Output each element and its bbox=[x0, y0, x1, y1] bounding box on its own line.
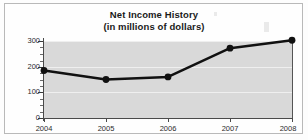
x-tick-label-2006: 2006 bbox=[148, 124, 188, 133]
chart-title-line-1: Net Income History bbox=[0, 9, 308, 21]
y-minor-tick bbox=[40, 99, 43, 100]
x-tick-label-2007: 2007 bbox=[210, 124, 250, 133]
gridline-200 bbox=[44, 67, 292, 68]
x-tick-2007 bbox=[230, 118, 231, 122]
y-major-tick-100 bbox=[38, 92, 43, 93]
y-minor-tick bbox=[40, 54, 43, 55]
y-minor-tick bbox=[40, 73, 43, 74]
y-minor-tick bbox=[40, 80, 43, 81]
y-minor-tick bbox=[40, 47, 43, 48]
y-major-tick-300 bbox=[38, 41, 43, 42]
gridlines bbox=[44, 41, 292, 118]
y-tick-label-200: 200 bbox=[6, 63, 40, 71]
x-tick-2008 bbox=[292, 118, 293, 122]
y-tick-label-100: 100 bbox=[6, 88, 40, 96]
chart-title-line-2: (in millions of dollars) bbox=[0, 21, 308, 33]
x-tick-label-2004: 2004 bbox=[24, 124, 64, 133]
y-minor-tick bbox=[40, 86, 43, 87]
y-minor-tick bbox=[40, 61, 43, 62]
y-axis-labels: 300 200 100 0 bbox=[4, 0, 40, 140]
x-tick-2005 bbox=[106, 118, 107, 122]
plot-area bbox=[44, 41, 293, 118]
x-tick-label-2005: 2005 bbox=[86, 124, 126, 133]
y-major-tick-200 bbox=[38, 67, 43, 68]
y-minor-tick bbox=[40, 105, 43, 106]
gridline-100 bbox=[44, 92, 292, 93]
y-tick-label-0: 0 bbox=[6, 114, 40, 122]
chart-figure: Net Income History (in millions of dolla… bbox=[0, 0, 308, 140]
gridline-300 bbox=[44, 41, 292, 42]
y-axis-line bbox=[43, 38, 44, 121]
y-major-tick-0 bbox=[38, 118, 43, 119]
x-tick-label-2008: 2008 bbox=[268, 124, 308, 133]
y-tick-label-300: 300 bbox=[6, 37, 40, 45]
x-tick-2004 bbox=[44, 118, 45, 122]
x-tick-2006 bbox=[168, 118, 169, 122]
y-minor-tick bbox=[40, 112, 43, 113]
chart-title: Net Income History (in millions of dolla… bbox=[0, 9, 308, 32]
